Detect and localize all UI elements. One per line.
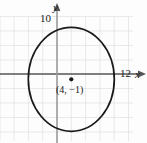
center-point-label: (4, −1) <box>56 85 83 95</box>
ellipse-graph-figure: y 10 12 x (4, −1) <box>0 0 147 143</box>
grid-lines <box>0 17 133 142</box>
x-axis-tick-label: 12 <box>120 68 131 79</box>
y-axis-label: y <box>53 2 58 13</box>
center-point-marker <box>69 77 73 81</box>
y-axis <box>54 3 61 143</box>
x-axis-label: x <box>135 69 140 80</box>
y-axis-tick-label: 10 <box>40 13 51 24</box>
